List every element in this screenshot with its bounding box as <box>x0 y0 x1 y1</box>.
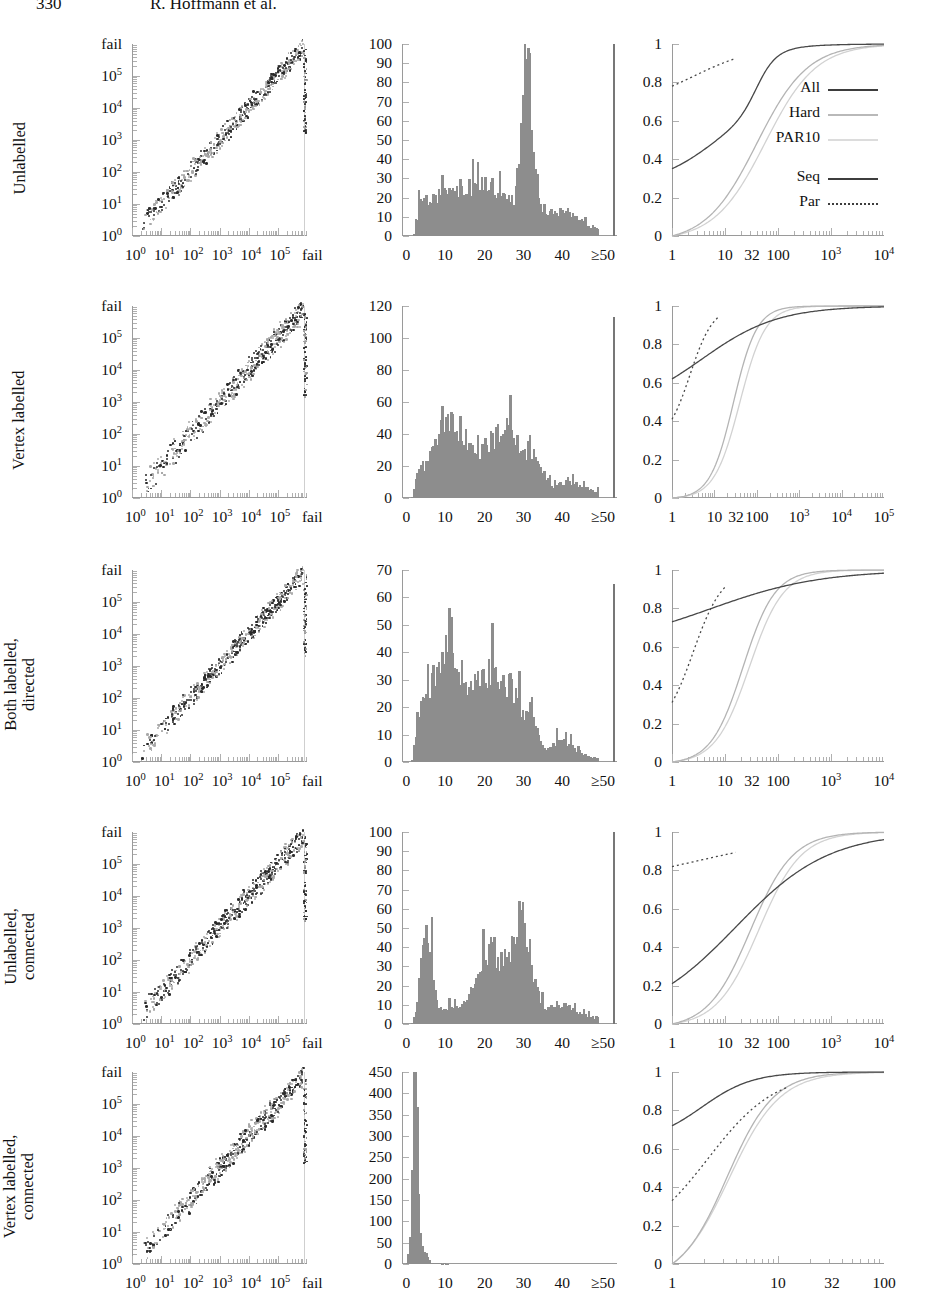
scatter-y-tick <box>133 162 137 163</box>
scatter-point-fail <box>305 1083 307 1085</box>
scatter-point <box>231 661 234 664</box>
histogram-y-label: 250 <box>369 1148 392 1166</box>
scatter-point <box>269 87 271 89</box>
scatter-y-tick <box>133 641 137 642</box>
scatter-x-tick <box>204 231 205 235</box>
scatter-point <box>219 670 221 672</box>
scatter-y-tick <box>133 311 137 312</box>
scatter-point <box>213 1183 215 1185</box>
scatter-point <box>285 338 287 340</box>
scatter-y-tick <box>133 130 137 131</box>
cdf-x-label: 1 <box>668 1034 676 1052</box>
histogram-y-tick <box>403 1243 409 1244</box>
scatter-point <box>157 727 159 729</box>
scatter-point <box>146 1237 149 1240</box>
scatter-y-tick <box>133 970 137 971</box>
scatter-point <box>255 893 257 895</box>
scatter-point <box>206 687 208 689</box>
scatter-point <box>202 1183 204 1185</box>
scatter-y-tick <box>133 619 137 620</box>
histogram-y-tick <box>403 652 409 653</box>
scatter-point <box>165 1228 167 1230</box>
scatter-y-tick <box>133 743 137 744</box>
scatter-point <box>256 366 259 369</box>
scatter-point <box>299 326 301 328</box>
scatter-point <box>244 374 246 376</box>
scatter-point-fail <box>305 648 307 650</box>
histogram-y-label: 200 <box>369 1170 392 1188</box>
scatter-point <box>204 937 207 940</box>
scatter-x-tick <box>184 757 185 761</box>
scatter-x-label: 102 <box>183 1274 204 1292</box>
histogram-plot-area <box>402 1072 617 1264</box>
scatter-y-label: 100 <box>101 489 122 507</box>
scatter-y-tick <box>133 737 137 738</box>
scatter-point <box>228 400 231 403</box>
histogram-y-tick <box>403 870 409 871</box>
scatter-x-tick <box>155 1259 156 1263</box>
cdf-y-label: 0.6 <box>643 900 662 918</box>
cdf-x-label: 103 <box>821 1034 842 1052</box>
scatter-y-tick <box>133 1005 137 1006</box>
scatter-point <box>264 1128 267 1131</box>
scatter-point <box>236 1143 238 1145</box>
scatter-y-tick <box>133 637 137 638</box>
scatter-x-tick <box>240 757 241 761</box>
scatter-point <box>262 349 264 351</box>
scatter-point <box>195 1191 198 1194</box>
histogram-x-label: ≥50 <box>591 246 615 264</box>
scatter-y-tick <box>133 79 137 80</box>
histogram-overflow-spike <box>613 44 615 236</box>
histogram-y-label: 400 <box>369 1084 392 1102</box>
scatter-x-tick <box>146 1019 147 1023</box>
scatter-y-tick <box>133 466 140 467</box>
scatter-point <box>174 184 176 186</box>
scatter-point-fail <box>305 1131 307 1133</box>
scatter-point <box>221 145 224 148</box>
scatter-y-tick <box>133 747 137 748</box>
scatter-x-tick <box>213 231 214 235</box>
scatter-x-tick <box>237 1019 238 1023</box>
scatter-y-tick <box>133 1205 137 1206</box>
scatter-x-tick <box>190 228 191 235</box>
scatter-point <box>244 1141 246 1143</box>
scatter-point <box>165 987 167 989</box>
scatter-point <box>252 361 254 363</box>
scatter-y-tick <box>133 415 137 416</box>
scatter-x-tick <box>150 231 151 235</box>
histogram-x-label: 10 <box>437 1274 453 1292</box>
scatter-point <box>211 664 213 666</box>
scatter-point <box>226 922 228 924</box>
scatter-point-fail <box>306 1097 308 1099</box>
scatter-point <box>299 832 301 834</box>
scatter-point-fail <box>303 641 305 643</box>
scatter-x-tick <box>295 1259 296 1263</box>
scatter-point <box>178 973 180 975</box>
scatter-y-label: 105 <box>101 855 122 873</box>
scatter-point <box>253 369 256 372</box>
scatter-y-tick <box>133 607 137 608</box>
histogram-y-tick <box>403 338 409 339</box>
histogram-y-tick <box>403 402 409 403</box>
histogram-y-label: 20 <box>377 698 393 716</box>
scatter-y-tick <box>133 108 140 109</box>
scatter-point <box>217 1166 219 1168</box>
legend-style-sample <box>828 203 878 207</box>
scatter-point <box>241 384 243 386</box>
scatter-x-tick <box>152 493 153 497</box>
scatter-point <box>155 483 157 485</box>
scatter-point <box>176 191 179 194</box>
scatter-point <box>263 879 265 881</box>
scatter-point-fail <box>306 1156 308 1158</box>
scatter-x-tick <box>295 757 296 761</box>
scatter-point <box>245 634 247 636</box>
scatter-x-label: fail <box>302 246 323 264</box>
scatter-x-tick <box>233 1259 234 1263</box>
scatter-x-tick <box>184 493 185 497</box>
scatter-x-tick <box>233 493 234 497</box>
cdf-y-label: 0 <box>654 227 662 245</box>
scatter-point-fail <box>304 588 306 590</box>
scatter-point <box>222 1165 225 1168</box>
scatter-y-label: 104 <box>101 1127 122 1145</box>
scatter-point <box>271 83 273 85</box>
